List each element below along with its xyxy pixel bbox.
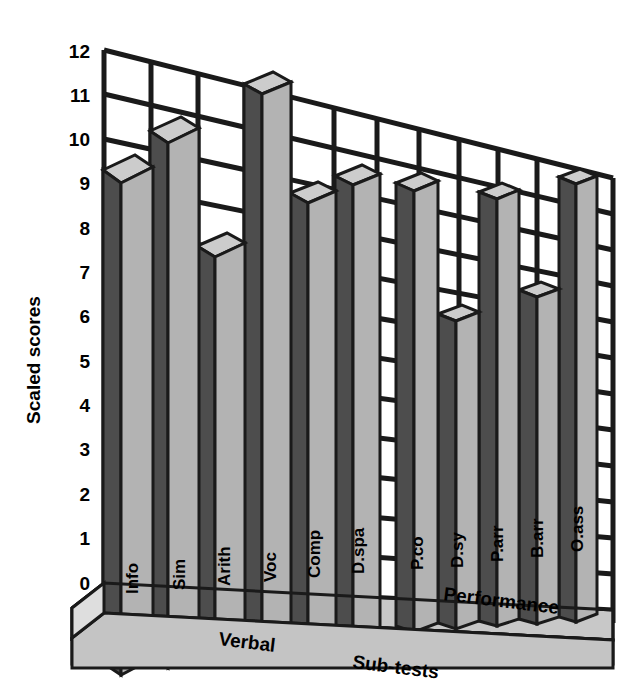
y-tick-3: 3 bbox=[79, 439, 90, 460]
perspective-bar-chart: 12 11 10 9 8 7 6 5 4 3 2 1 0 Scaled scor… bbox=[0, 0, 630, 698]
y-tick-4: 4 bbox=[79, 395, 90, 416]
cat-label-voc: Voc bbox=[261, 552, 280, 582]
bar-side-comp bbox=[290, 193, 308, 648]
bar-front-comp bbox=[308, 191, 336, 648]
cat-label-comp: Comp bbox=[305, 530, 324, 578]
y-tick-11: 11 bbox=[70, 85, 91, 106]
y-axis-title: Scaled scores bbox=[23, 296, 44, 424]
cat-label-o-ass: O.ass bbox=[568, 506, 587, 552]
cat-label-d-sy: D.sy bbox=[448, 532, 467, 568]
cat-label-p-arr: P.arr bbox=[488, 525, 507, 562]
y-axis-tick-labels: 12 11 10 9 8 7 6 5 4 3 2 1 0 bbox=[69, 41, 91, 594]
bar-arith[interactable] bbox=[197, 233, 245, 661]
y-tick-2: 2 bbox=[79, 484, 90, 505]
cat-label-p-co: P.co bbox=[408, 536, 427, 570]
cat-label-sim: Sim bbox=[170, 559, 189, 590]
bar-b-arr[interactable] bbox=[519, 282, 559, 624]
bar-side-d-sy bbox=[438, 314, 456, 629]
bar-d-sy[interactable] bbox=[438, 305, 479, 629]
bar-front-info bbox=[121, 167, 153, 675]
y-tick-0: 0 bbox=[79, 573, 90, 594]
y-tick-9: 9 bbox=[79, 173, 90, 194]
bar-info[interactable] bbox=[103, 155, 153, 675]
y-tick-5: 5 bbox=[79, 351, 90, 372]
bar-side-info bbox=[103, 170, 121, 675]
bar-front-d-sy bbox=[456, 312, 479, 629]
bar-side-b-arr bbox=[519, 290, 537, 624]
chart-canvas: 12 11 10 9 8 7 6 5 4 3 2 1 0 Scaled scor… bbox=[0, 0, 630, 698]
bar-o-ass[interactable] bbox=[559, 169, 597, 622]
bar-side-voc bbox=[244, 84, 262, 654]
y-tick-1: 1 bbox=[79, 528, 90, 549]
cat-label-info: Info bbox=[123, 563, 142, 594]
y-tick-12: 12 bbox=[69, 41, 90, 62]
y-tick-10: 10 bbox=[69, 129, 90, 150]
bar-front-arith bbox=[215, 243, 245, 661]
y-tick-6: 6 bbox=[79, 306, 90, 327]
y-tick-7: 7 bbox=[79, 262, 90, 283]
cat-label-d-spa: D.spa bbox=[349, 527, 368, 574]
y-tick-8: 8 bbox=[79, 218, 90, 239]
cat-label-arith: Arith bbox=[215, 546, 234, 586]
bar-front-b-arr bbox=[537, 289, 559, 624]
cat-label-b-arr: B.arr bbox=[528, 518, 547, 558]
bar-front-o-ass bbox=[576, 176, 597, 622]
bar-side-o-ass bbox=[559, 177, 576, 622]
